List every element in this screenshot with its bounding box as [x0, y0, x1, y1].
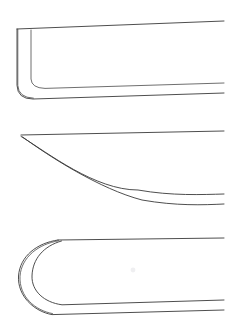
line-drawing-canvas — [0, 0, 240, 326]
paper-background — [0, 0, 240, 326]
paper-smudge — [131, 268, 136, 273]
figure-sheet — [0, 0, 240, 326]
